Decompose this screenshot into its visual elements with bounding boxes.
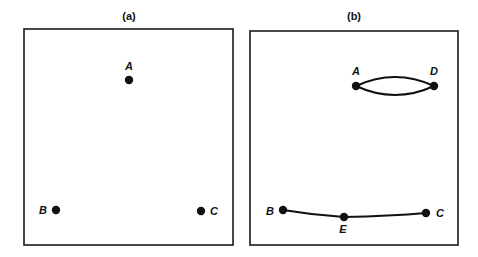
node-label: A xyxy=(351,65,360,77)
node-dot xyxy=(125,76,133,84)
node-b-C: C xyxy=(422,207,445,219)
edge-A-D-upper xyxy=(356,77,434,86)
node-dot xyxy=(52,206,60,214)
edge-B-E xyxy=(283,210,344,217)
node-label: D xyxy=(430,65,438,77)
node-a-C: C xyxy=(197,205,219,217)
node-a-A: A xyxy=(124,60,133,84)
node-label: B xyxy=(266,205,274,217)
node-b-D: D xyxy=(430,65,438,90)
node-dot xyxy=(279,206,287,214)
node-b-E: E xyxy=(339,213,348,235)
edge-E-C xyxy=(344,213,426,217)
panel-a: (a) A B C xyxy=(24,10,233,245)
panel-b: (b) A D B E C xyxy=(250,10,458,245)
panel-b-title: (b) xyxy=(347,10,361,22)
node-dot xyxy=(430,82,438,90)
edge-A-D-lower xyxy=(356,86,434,95)
panel-a-title: (a) xyxy=(122,10,136,22)
node-a-B: B xyxy=(39,204,60,216)
node-b-B: B xyxy=(266,205,287,217)
node-dot xyxy=(352,82,360,90)
node-label: C xyxy=(436,207,445,219)
node-label: B xyxy=(39,204,47,216)
node-dot xyxy=(197,207,205,215)
node-dot xyxy=(422,209,430,217)
node-label: E xyxy=(339,223,347,235)
diagram-canvas: (a) A B C (b) A D xyxy=(0,0,478,257)
node-dot xyxy=(340,213,348,221)
node-label: C xyxy=(210,205,219,217)
node-label: A xyxy=(124,60,133,72)
node-b-A: A xyxy=(351,65,360,90)
